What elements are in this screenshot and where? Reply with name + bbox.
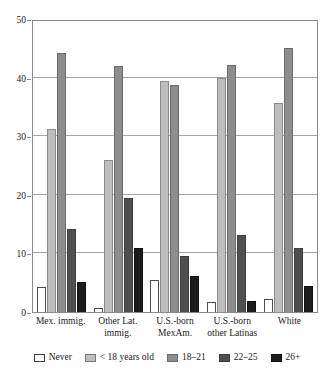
bar — [67, 229, 76, 312]
bar — [37, 287, 46, 312]
x-tick-label-line: U.S.-born — [204, 316, 261, 328]
y-axis — [0, 20, 30, 313]
bar — [114, 66, 123, 312]
legend-swatch-icon — [219, 354, 230, 362]
x-tick-label-line: Mex. immig. — [32, 316, 89, 328]
bar — [217, 78, 226, 312]
bar-group — [90, 21, 147, 312]
bar — [104, 160, 113, 312]
legend-label: 18–21 — [182, 352, 206, 363]
x-tick-label: Other Lat.immig. — [89, 316, 146, 339]
y-tick-mark-30 — [27, 137, 31, 138]
legend-swatch-icon — [167, 354, 178, 362]
x-tick-label: U.S.-bornother Latinas — [204, 316, 261, 339]
y-tick-mark-50 — [27, 20, 31, 21]
legend-item: 18–21 — [167, 352, 206, 363]
bar — [160, 81, 169, 312]
bar — [150, 280, 159, 312]
legend-label: 26+ — [286, 352, 301, 363]
bar — [304, 286, 313, 312]
bar — [134, 248, 143, 312]
plot-area — [32, 20, 318, 313]
bar — [247, 301, 256, 312]
x-tick-label-line: other Latinas — [204, 328, 261, 340]
bar — [124, 198, 133, 312]
legend-item: 26+ — [271, 352, 301, 363]
y-tick-label-20: 20 — [0, 191, 26, 201]
legend-swatch-icon — [271, 354, 282, 362]
bar — [264, 299, 273, 312]
legend-item: < 18 years old — [85, 352, 154, 363]
bar — [57, 53, 66, 312]
bar — [237, 235, 246, 312]
x-tick-label-line: MexAm. — [146, 328, 203, 340]
y-tick-label-40: 40 — [0, 74, 26, 84]
legend-label: 22–25 — [234, 352, 258, 363]
y-tick-mark-0 — [27, 313, 31, 314]
bar — [170, 85, 179, 312]
bar — [94, 308, 103, 312]
bar — [190, 276, 199, 312]
bar — [284, 48, 293, 312]
bar — [47, 129, 56, 312]
bar-groups — [33, 21, 317, 312]
chart-legend: Never< 18 years old18–2122–2526+ — [0, 352, 334, 363]
y-tick-mark-20 — [27, 196, 31, 197]
x-tick-labels: Mex. immig.Other Lat.immig.U.S.-bornMexA… — [32, 316, 318, 339]
y-tick-label-50: 50 — [0, 15, 26, 25]
x-tick-label: White — [261, 316, 318, 339]
legend-label: < 18 years old — [100, 352, 154, 363]
x-tick-label-line: Other Lat. — [89, 316, 146, 328]
grouped-bar-chart: 01020304050 Mex. immig.Other Lat.immig.U… — [0, 0, 334, 376]
x-tick-label-line: White — [261, 316, 318, 328]
bar — [207, 302, 216, 312]
bar — [227, 65, 236, 312]
y-tick-label-30: 30 — [0, 132, 26, 142]
x-tick-label: Mex. immig. — [32, 316, 89, 339]
y-tick-label-0: 0 — [0, 308, 26, 318]
legend-item: Never — [34, 352, 72, 363]
legend-item: 22–25 — [219, 352, 258, 363]
bar — [294, 248, 303, 312]
bar-group — [33, 21, 90, 312]
x-tick-label-line: U.S.-born — [146, 316, 203, 328]
y-tick-label-10: 10 — [0, 249, 26, 259]
bar-group — [203, 21, 260, 312]
bar — [180, 256, 189, 312]
x-tick-label-line: immig. — [89, 328, 146, 340]
x-tick-label: U.S.-bornMexAm. — [146, 316, 203, 339]
bar-group — [260, 21, 317, 312]
y-tick-mark-10 — [27, 254, 31, 255]
y-tick-mark-40 — [27, 79, 31, 80]
bar-group — [147, 21, 204, 312]
bar — [274, 103, 283, 312]
legend-swatch-icon — [34, 354, 45, 362]
bar — [77, 282, 86, 312]
legend-swatch-icon — [85, 354, 96, 362]
legend-label: Never — [49, 352, 72, 363]
